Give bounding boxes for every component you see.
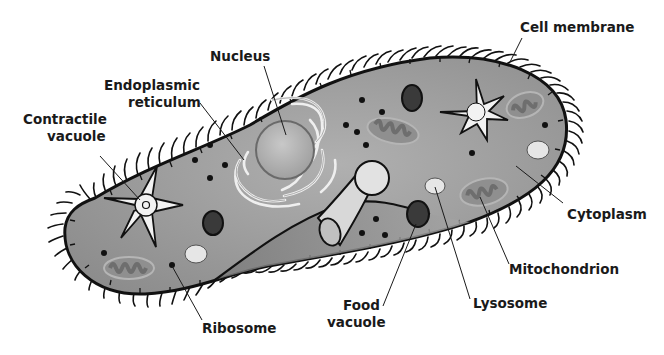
label-er-line1: Endoplasmic (104, 77, 200, 93)
label-ribosome: Ribosome (202, 320, 277, 336)
mitochondrion-1 (104, 257, 154, 279)
label-cytoplasm: Cytoplasm (567, 206, 647, 222)
food-vacuole-1 (203, 211, 223, 235)
lysosome-1 (185, 245, 207, 263)
label-fv-line2: vacuole (327, 314, 386, 330)
paramecium-diagram: Cell membrane Nucleus Endoplasmic reticu… (0, 0, 664, 355)
label-cv-line1: Contractile (23, 111, 107, 127)
lysosome-3 (527, 141, 549, 159)
food-vacuole-3 (407, 201, 429, 227)
label-fv-line1: Food (343, 297, 380, 313)
label-er-line2: reticulum (128, 94, 201, 110)
label-mitochondrion: Mitochondrion (509, 261, 619, 277)
label-cv-line2: vacuole (47, 128, 106, 144)
label-lysosome: Lysosome (473, 295, 547, 311)
food-vacuole-2 (402, 85, 422, 111)
label-nucleus: Nucleus (210, 48, 270, 64)
nucleus (256, 121, 314, 179)
lysosome-2 (425, 178, 445, 194)
label-cell-membrane: Cell membrane (520, 19, 635, 35)
